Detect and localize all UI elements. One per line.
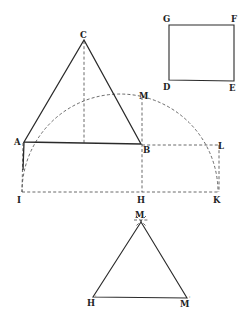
label-m: M [139,91,149,101]
label-b: B [143,145,150,155]
label-a: A [13,137,21,147]
label-h-prime: H [87,298,95,308]
triangle-bottom-outline [93,222,187,298]
square-gfed: G F D E [163,14,237,93]
label-c: C [80,30,87,40]
label-g: G [163,14,170,24]
triangle-abc: C A B [13,30,150,170]
label-i: I [17,195,21,205]
prime-h: ' [95,294,96,300]
square-outline [169,25,234,81]
label-h: H [137,195,145,205]
triangle-abc-outline [24,40,141,144]
line-a-down [23,142,24,170]
construction-lines [22,41,219,192]
label-e: E [229,83,236,93]
label-k: K [213,195,221,205]
label-l: L [218,141,224,151]
geometry-figure: G F D E C A B M L I H K M H ' M [0,0,245,322]
label-d: D [163,82,171,92]
triangle-bottom: M H ' M ' [87,210,190,309]
label-m-apex: M [135,210,145,220]
prime-m: ' [189,295,190,301]
label-f: F [231,14,237,24]
